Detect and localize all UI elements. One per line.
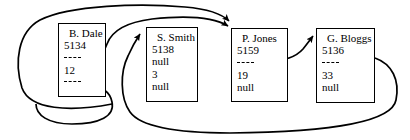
node-g-bloggs[interactable]: G. Bloggs 5136 33 null — [316, 28, 375, 103]
node-g-bloggs-name: G. Bloggs — [322, 32, 374, 44]
node-p-jones-pointer-top — [237, 56, 287, 68]
node-p-jones-number: 5159 — [237, 44, 287, 56]
node-s-smith-name: S. Smith — [152, 31, 197, 43]
node-b-dale-pointer-top — [64, 51, 105, 63]
node-b-dale-number: 5134 — [64, 39, 105, 51]
node-p-jones-value: 19 — [237, 69, 287, 81]
node-b-dale-pointer-bottom — [64, 76, 105, 88]
node-g-bloggs-number: 5136 — [322, 44, 374, 56]
node-s-smith[interactable]: S. Smith 5138 null 3 null — [146, 27, 198, 102]
node-b-dale[interactable]: B. Dale 5134 12 — [58, 23, 106, 97]
node-p-jones[interactable]: P. Jones 5159 19 null — [231, 28, 288, 102]
node-b-dale-value: 12 — [64, 64, 105, 76]
node-g-bloggs-value: 33 — [322, 69, 374, 81]
node-s-smith-number: 5138 — [152, 43, 197, 55]
node-s-smith-value: 3 — [152, 68, 197, 80]
node-g-bloggs-pointer-bottom: null — [322, 81, 374, 93]
node-p-jones-name: P. Jones — [237, 32, 287, 44]
node-b-dale-name: B. Dale — [64, 27, 105, 39]
node-s-smith-pointer-bottom: null — [152, 80, 197, 92]
node-s-smith-pointer-top: null — [152, 55, 197, 67]
node-g-bloggs-pointer-top — [322, 56, 374, 68]
node-p-jones-pointer-bottom: null — [237, 81, 287, 93]
